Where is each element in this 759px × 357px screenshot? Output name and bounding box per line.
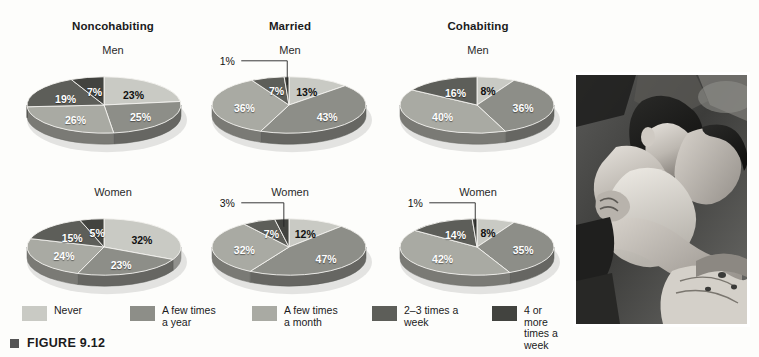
legend-label-2: A few times a month (284, 305, 338, 328)
legend: NeverA few times a yearA few times a mon… (22, 305, 562, 339)
pie-slice-noncohabiting-men-0[interactable] (104, 77, 180, 105)
legend-swatch-few_times_month (252, 306, 277, 321)
figure-page: Noncohabiting Married Cohabiting Men Men… (0, 0, 759, 357)
figure-caption: FIGURE 9.12 (10, 336, 105, 350)
legend-label-4: 4 or more times a week (524, 305, 562, 351)
pie-svg-married-women (205, 200, 373, 306)
column-heading-noncohabiting: Noncohabiting (33, 20, 193, 32)
pie-callout-label-married-men: 1% (220, 55, 235, 67)
legend-swatch-four_or_more_week (492, 306, 517, 321)
legend-label-3: 2–3 times a week (404, 305, 458, 328)
pie-svg-cohabiting-women (393, 200, 561, 306)
legend-item-3[interactable]: 2–3 times a week (372, 305, 458, 328)
pie-chart-cohabiting-women: 8%35%42%14%1% (393, 200, 561, 306)
photo-frame (573, 72, 750, 327)
legend-item-1[interactable]: A few times a year (130, 305, 216, 328)
pie-chart-noncohabiting-women: 32%23%24%15%5% (20, 200, 188, 306)
legend-label-1: A few times a year (162, 305, 216, 328)
pie-callout-label-married-women: 3% (220, 197, 235, 209)
pie-chart-cohabiting-men: 8%36%40%16% (393, 58, 561, 164)
figure-caption-text: FIGURE 9.12 (27, 336, 105, 350)
row-subtitle-men-noncohabiting: Men (33, 44, 193, 56)
pie-chart-married-women: 12%47%32%7%3% (205, 200, 373, 306)
legend-swatch-few_times_year (130, 306, 155, 321)
pie-svg-cohabiting-men (393, 58, 561, 164)
pie-chart-married-men: 13%43%36%7%1% (205, 58, 373, 164)
legend-swatch-never (22, 306, 47, 321)
pie-callout-label-cohabiting-women: 1% (408, 197, 423, 209)
column-heading-cohabiting: Cohabiting (398, 20, 558, 32)
row-subtitle-men-cohabiting: Men (398, 44, 558, 56)
pie-svg-noncohabiting-men (20, 58, 188, 164)
legend-item-2[interactable]: A few times a month (252, 305, 338, 328)
legend-item-0[interactable]: Never (22, 305, 82, 321)
pie-chart-noncohabiting-men: 23%25%26%19%7% (20, 58, 188, 164)
couple-embracing-photo (576, 75, 747, 324)
square-bullet-icon (10, 339, 19, 348)
legend-item-4[interactable]: 4 or more times a week (492, 305, 562, 351)
pie-svg-noncohabiting-women (20, 200, 188, 306)
legend-swatch-two_three_week (372, 306, 397, 321)
column-heading-married: Married (210, 20, 370, 32)
pie-svg-married-men (205, 58, 373, 164)
legend-label-0: Never (54, 305, 82, 317)
row-subtitle-women-noncohabiting: Women (33, 186, 193, 198)
